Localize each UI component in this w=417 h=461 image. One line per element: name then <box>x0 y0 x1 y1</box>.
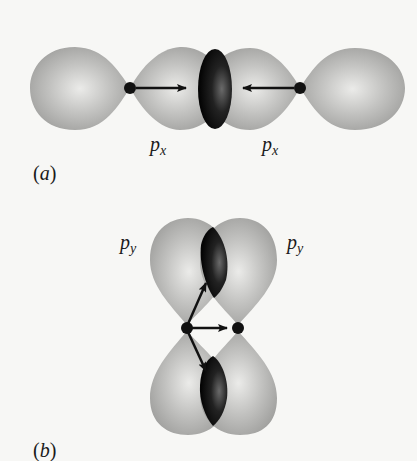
panel-letter: a <box>40 162 50 184</box>
right-nucleus <box>294 82 306 94</box>
panel-a-sigma-bond <box>30 47 405 130</box>
label-main: p <box>120 231 130 253</box>
label-subscript: y <box>130 241 136 256</box>
left-nucleus <box>124 82 136 94</box>
label-main: p <box>262 133 272 155</box>
left-atom-back-lobe <box>30 47 130 130</box>
label-subscript: x <box>160 143 166 158</box>
right-nucleus <box>232 322 244 334</box>
right-atom-back-lobe <box>300 48 405 130</box>
sigma-overlap-region <box>198 49 232 129</box>
panel-letter: b <box>40 439 50 461</box>
orbital-label-py-right: py <box>287 232 303 256</box>
panel-b-pi-bond <box>150 218 277 435</box>
label-subscript: y <box>297 241 303 256</box>
left-nucleus <box>181 322 193 334</box>
orbital-label-px-left: px <box>150 134 166 158</box>
orbital-label-px-right: px <box>262 134 278 158</box>
label-main: p <box>287 231 297 253</box>
panel-label-a: (a) <box>33 163 56 183</box>
label-subscript: x <box>272 143 278 158</box>
orbital-label-py-left: py <box>120 232 136 256</box>
panel-label-b: (b) <box>33 440 56 460</box>
label-main: p <box>150 133 160 155</box>
